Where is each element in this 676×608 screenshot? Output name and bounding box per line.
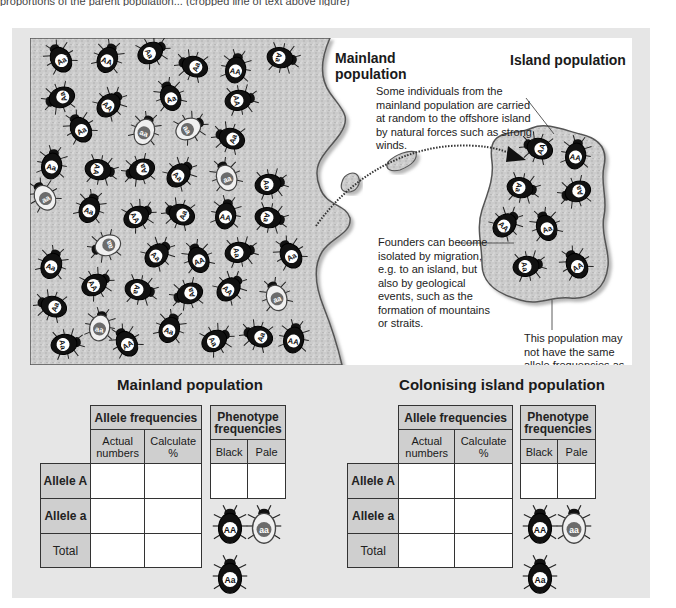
svg-text:Aa: Aa (534, 575, 545, 585)
svg-text:Aa: Aa (224, 575, 235, 585)
cell-A-actual[interactable] (399, 464, 455, 499)
island-table-title: Colonising island population (372, 376, 632, 393)
cell-a-actual[interactable] (399, 499, 455, 534)
cell-pale[interactable] (558, 464, 596, 499)
note-frequencies: This population may not have the same al… (524, 332, 632, 365)
cell-a-actual[interactable] (90, 499, 145, 534)
svg-text:AA: AA (224, 525, 236, 535)
cell-a-percent[interactable] (145, 499, 202, 534)
scene-svg: AaAAAaAaAAAaAaAAAaAAAaaaaaAaAaAAAaAaaaAa… (30, 38, 632, 365)
island-phenotype-table: Phenotype frequencies Black Pale (520, 405, 596, 499)
cell-black[interactable] (211, 464, 248, 499)
mainland-phenotype-table: Phenotype frequencies Black Pale (210, 405, 286, 499)
black-header: Black (521, 440, 558, 464)
calculate-percent-header: Calculate % (455, 430, 513, 464)
row-total: Total (348, 534, 399, 568)
black-beetle-icon: Aa (213, 555, 248, 593)
svg-text:aa: aa (569, 525, 579, 535)
mainland-landmass (30, 38, 350, 365)
phenotype-header: Phenotype frequencies (521, 406, 596, 440)
note-migration: Some individuals from the mainland popul… (376, 85, 536, 153)
mainland-table-title: Mainland population (60, 376, 320, 393)
black-beetle-icon: AA (523, 505, 558, 543)
row-allele-a: Allele a (348, 499, 399, 534)
migrating-blob-1 (341, 173, 359, 192)
island-key-beetles: AAaaAa (518, 498, 608, 608)
cell-total-percent[interactable] (455, 534, 513, 568)
actual-numbers-header: Actual numbers (399, 430, 455, 464)
cell-A-percent[interactable] (145, 464, 202, 499)
cell-total-actual[interactable] (90, 534, 145, 568)
mainland-label: Mainland population (335, 50, 425, 82)
row-total: Total (41, 534, 91, 568)
pale-beetle-icon: aa (247, 505, 282, 543)
allele-frequencies-header: Allele frequencies (399, 406, 513, 430)
cropped-caption: proportions of the parent population... … (0, 0, 676, 6)
island-allele-table: Allele frequencies Actual numbers Calcul… (347, 405, 513, 568)
black-beetle-icon: Aa (523, 555, 558, 593)
svg-text:aa: aa (259, 525, 269, 535)
cell-pale[interactable] (248, 464, 286, 499)
cell-total-actual[interactable] (399, 534, 455, 568)
island-label: Island population (510, 52, 630, 68)
cell-a-percent[interactable] (455, 499, 513, 534)
mainland-key-beetles: AAaaAa (208, 498, 298, 608)
row-allele-a: Allele a (41, 499, 91, 534)
calculate-percent-header: Calculate % (145, 430, 202, 464)
svg-text:AA: AA (534, 525, 546, 535)
cell-black[interactable] (521, 464, 558, 499)
pale-header: Pale (248, 440, 286, 464)
pale-beetle-icon: aa (557, 505, 592, 543)
phenotype-header: Phenotype frequencies (211, 406, 286, 440)
black-beetle-icon: AA (213, 505, 248, 543)
actual-numbers-header: Actual numbers (90, 430, 145, 464)
illustration-panel: AaAAAaAaAAAaAaAAAaAAAaaaaaAaAaAAAaAaaaAa… (30, 38, 632, 365)
pale-header: Pale (558, 440, 596, 464)
black-header: Black (211, 440, 248, 464)
allele-frequencies-header: Allele frequencies (90, 406, 201, 430)
row-allele-A: Allele A (41, 464, 91, 499)
note-founders: Founders can become isolated by migratio… (378, 236, 490, 331)
cell-total-percent[interactable] (145, 534, 202, 568)
mainland-allele-table: Allele frequencies Actual numbers Calcul… (40, 405, 202, 568)
cell-A-percent[interactable] (455, 464, 513, 499)
row-allele-A: Allele A (348, 464, 399, 499)
cell-A-actual[interactable] (90, 464, 145, 499)
